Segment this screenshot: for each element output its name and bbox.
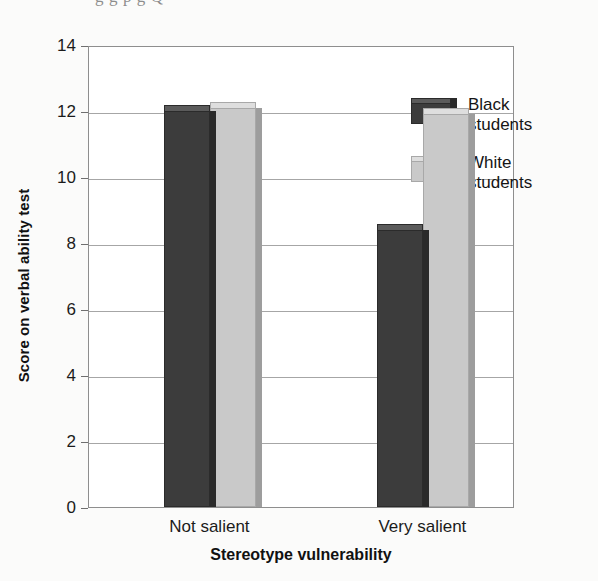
y-axis-tick-mark — [81, 244, 88, 245]
bar — [164, 111, 210, 507]
y-axis-tick-mark — [81, 46, 88, 47]
y-axis-tick-label: 6 — [67, 300, 76, 320]
y-axis-tick-mark — [81, 508, 88, 509]
y-axis-tick-mark — [81, 178, 88, 179]
bar — [377, 230, 423, 507]
y-axis-tick-mark — [81, 376, 88, 377]
y-axis-tick-label: 14 — [57, 36, 76, 56]
y-axis-tick-label: 2 — [67, 432, 76, 452]
legend-label: White students — [468, 153, 532, 193]
bar — [210, 108, 256, 507]
y-axis-tick-label: 12 — [57, 102, 76, 122]
y-axis-tick-mark — [81, 112, 88, 113]
y-axis-tick-mark — [81, 442, 88, 443]
y-axis-title: Score on verbal ability test — [15, 96, 32, 476]
legend-label: Black students — [468, 95, 532, 135]
y-axis-tick-label: 0 — [67, 498, 76, 518]
x-axis-title: Stereotype vulnerability — [88, 546, 514, 564]
y-axis-tick-label: 8 — [67, 234, 76, 254]
y-axis-tick-mark — [81, 310, 88, 311]
x-axis-tick-label: Very salient — [378, 517, 466, 537]
y-axis-tick-label: 4 — [67, 366, 76, 386]
x-axis-tick-label: Not salient — [169, 517, 249, 537]
bar — [423, 114, 469, 507]
y-axis: 02468101214 — [0, 0, 88, 581]
plot-area: Black students White students — [88, 46, 514, 508]
y-axis-tick-label: 10 — [57, 168, 76, 188]
bar-chart-figure: 02468101214 Score on verbal ability test… — [0, 0, 598, 581]
